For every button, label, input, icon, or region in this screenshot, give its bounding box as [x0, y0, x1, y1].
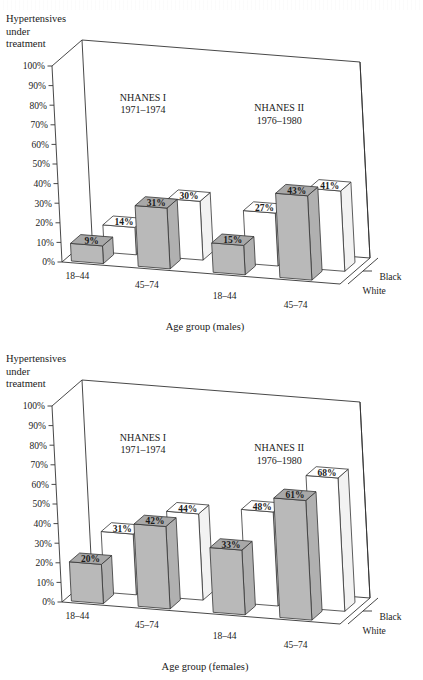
y-tick-label: 0% — [42, 597, 55, 607]
bar-front-face — [210, 548, 245, 615]
bar-value-label: 68% — [318, 468, 337, 478]
survey-header-years: 1976–1980 — [257, 115, 302, 126]
x-category-label: 45–74 — [284, 300, 308, 310]
y-tick-label: 60% — [32, 140, 50, 150]
x-category-label: 18–44 — [65, 271, 89, 281]
bar-value-label: 20% — [81, 554, 100, 564]
right-back-edge — [360, 402, 370, 598]
bar-value-label: 41% — [320, 181, 339, 191]
survey-header-years: 1976–1980 — [257, 455, 302, 466]
bar-value-label: 61% — [285, 490, 304, 500]
y-tick-label: 20% — [36, 218, 54, 228]
bar-value-label: 42% — [146, 516, 165, 526]
y-tick-label: 50% — [33, 499, 51, 509]
bar-black-2: 33% — [210, 539, 256, 615]
bar-value-label: 30% — [180, 191, 199, 201]
y-tick-label: 30% — [35, 199, 53, 209]
chart-females: 100%90%80%70%60%50%40%30%20%10%0%Hyperte… — [0, 340, 423, 680]
survey-header-name: NHANES II — [254, 442, 304, 453]
bar-black-2: 15% — [212, 234, 256, 275]
bar-front-face — [135, 206, 170, 269]
right-back-edge — [360, 62, 370, 258]
top-left-edge — [52, 40, 82, 66]
y-tick-label: 40% — [34, 179, 52, 189]
bar-front-face — [212, 243, 246, 275]
bar-value-label: 44% — [178, 504, 197, 514]
x-category-label: 18–44 — [213, 631, 237, 641]
x-category-label: 18–44 — [213, 291, 237, 301]
bar-value-label: 48% — [253, 502, 272, 512]
survey-header-years: 1971–1974 — [120, 104, 165, 115]
bar-value-label: 14% — [114, 217, 133, 227]
y-tick-label: 70% — [31, 460, 49, 470]
bar-front-face — [134, 524, 170, 609]
y-tick-label: 90% — [29, 81, 47, 91]
y-tick-label: 100% — [23, 401, 45, 411]
x-category-label: 45–74 — [135, 280, 159, 290]
y-tick-label: 80% — [30, 101, 48, 111]
chart-females-svg: 100%90%80%70%60%50%40%30%20%10%0%Hyperte… — [0, 340, 423, 680]
y-tick-label: 0% — [42, 257, 55, 267]
y-tick-label: 80% — [30, 441, 48, 451]
y-tick-label: 100% — [23, 61, 45, 71]
bar-black-3: 43% — [276, 184, 323, 280]
bar-black-3: 61% — [274, 489, 322, 620]
y-axis-title-line: Hypertensives — [6, 13, 66, 24]
y-tick-label: 90% — [29, 421, 47, 431]
y-tick-label: 70% — [31, 120, 49, 130]
x-axis-title: Age group (males) — [166, 321, 245, 333]
y-axis-title-line: treatment — [6, 378, 46, 389]
y-axis-title-line: under — [6, 366, 30, 377]
bar-front-face — [69, 562, 103, 604]
y-axis-title-line: under — [6, 26, 30, 37]
y-axis-title-line: Hypertensives — [6, 353, 66, 364]
bar-black-0: 9% — [71, 235, 114, 264]
bar-black-0: 20% — [69, 553, 113, 604]
bar-value-label: 9% — [85, 236, 99, 246]
x-axis-title: Age group (females) — [162, 661, 249, 673]
survey-header-years: 1971–1974 — [120, 444, 165, 455]
y-tick-label: 10% — [37, 238, 55, 248]
bar-black-1: 31% — [135, 197, 180, 269]
bar-value-label: 43% — [287, 186, 306, 196]
y-tick-label: 50% — [33, 159, 51, 169]
figure-page: 100%90%80%70%60%50%40%30%20%10%0%Hyperte… — [0, 0, 423, 680]
legend-label-black: Black — [379, 272, 401, 282]
y-tick-label: 20% — [36, 558, 54, 568]
y-tick-label: 30% — [35, 539, 53, 549]
legend-label-white: White — [363, 626, 386, 636]
bar-front-face — [276, 193, 312, 280]
bar-value-label: 15% — [223, 235, 242, 245]
bar-black-1: 42% — [134, 515, 180, 609]
survey-header-name: NHANES I — [120, 92, 166, 103]
legend-label-black: Black — [379, 612, 401, 622]
y-tick-label: 60% — [32, 480, 50, 490]
top-left-edge — [52, 380, 82, 406]
bar-front-face — [71, 243, 104, 263]
x-category-label: 45–74 — [284, 640, 308, 650]
survey-header-name: NHANES II — [254, 102, 304, 113]
chart-males: 100%90%80%70%60%50%40%30%20%10%0%Hyperte… — [0, 0, 423, 340]
chart-males-svg: 100%90%80%70%60%50%40%30%20%10%0%Hyperte… — [0, 0, 423, 340]
bar-value-label: 31% — [147, 198, 166, 208]
y-tick-label: 40% — [34, 519, 52, 529]
bar-value-label: 33% — [222, 540, 241, 550]
y-axis-title-line: treatment — [6, 38, 46, 49]
y-tick-label: 10% — [37, 578, 55, 588]
x-category-label: 45–74 — [135, 620, 159, 630]
x-category-label: 18–44 — [65, 611, 89, 621]
survey-header-name: NHANES I — [120, 432, 166, 443]
bar-value-label: 31% — [113, 524, 132, 534]
bar-value-label: 27% — [255, 203, 274, 213]
legend-label-white: White — [363, 286, 386, 296]
bar-front-face — [274, 498, 312, 620]
